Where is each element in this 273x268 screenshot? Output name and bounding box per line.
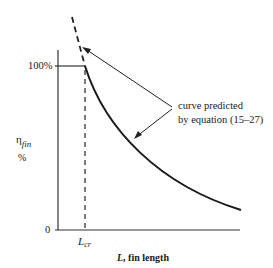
eta-subscript: fin bbox=[22, 139, 32, 149]
y-tick-0: 0 bbox=[45, 224, 50, 236]
y-axis-unit: % bbox=[18, 152, 26, 164]
fin-efficiency-diagram bbox=[0, 0, 273, 268]
x-axis-label: L, fin length bbox=[117, 252, 169, 264]
arrowhead-upper-icon bbox=[82, 47, 91, 54]
x-axis-text: , fin length bbox=[123, 252, 169, 263]
arrowhead-lower-icon bbox=[134, 131, 142, 139]
annotation-line-2: by equation (15–27) bbox=[178, 114, 263, 126]
eta-symbol: η bbox=[16, 133, 22, 145]
critical-length-label: Lcr bbox=[78, 235, 91, 249]
dashed-extrapolated-curve bbox=[72, 17, 85, 66]
y-tick-100: 100% bbox=[28, 60, 53, 72]
cr-subscript: cr bbox=[84, 240, 91, 249]
arrow-line-lower bbox=[136, 109, 172, 137]
y-axis-label: ηfin bbox=[16, 133, 31, 146]
annotation-line-1: curve predicted bbox=[178, 100, 243, 112]
fin-efficiency-curve bbox=[85, 66, 241, 210]
